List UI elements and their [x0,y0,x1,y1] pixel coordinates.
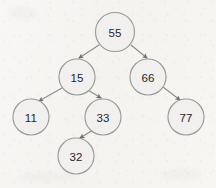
node-label: 66 [141,72,154,84]
tree-edge [79,45,99,58]
tree-node: 15 [59,59,95,95]
tree-node: 77 [168,99,204,135]
node-label: 15 [70,72,83,84]
node-label: 33 [96,112,109,124]
binary-tree-diagram: 55156611337732 [0,0,216,188]
node-label: 77 [179,112,192,124]
tree-node: 55 [96,13,135,52]
tree-edge [163,87,180,100]
node-label: 32 [69,151,82,163]
nodes-layer: 55156611337732 [13,13,204,175]
tree-node: 32 [58,138,94,174]
tree-canvas: 55156611337732 [0,0,216,188]
tree-edge [39,88,62,101]
node-label: 55 [108,27,121,39]
tree-edge [88,90,101,98]
tree-edge [131,45,147,58]
tree-node: 33 [85,99,121,135]
tree-node: 66 [130,59,166,95]
node-label: 11 [25,112,37,124]
tree-node: 11 [13,99,49,135]
